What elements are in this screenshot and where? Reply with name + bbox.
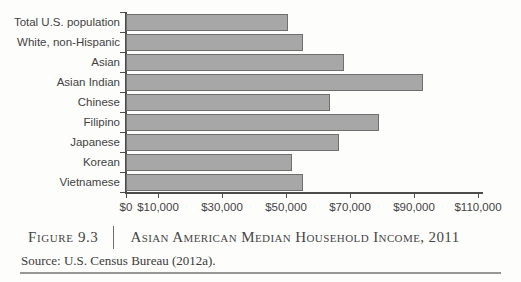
chart-row: Chinese <box>126 92 478 112</box>
x-tick-label: $0 <box>120 201 133 213</box>
figure-title: Asian American Median Household Income, … <box>130 229 459 246</box>
bar <box>126 134 339 151</box>
x-axis-tick <box>126 193 127 198</box>
y-axis-tick <box>120 112 126 113</box>
plot-area: Total U.S. populationWhite, non-Hispanic… <box>126 12 478 192</box>
y-axis-tick <box>120 152 126 153</box>
y-axis-tick <box>120 12 126 13</box>
y-axis-tick <box>120 72 126 73</box>
source-note: Source: U.S. Census Bureau (2012a). <box>21 253 216 269</box>
x-tick-label: $110,000 <box>454 201 501 213</box>
x-axis-tick <box>414 193 415 198</box>
bar <box>126 34 303 51</box>
category-label: White, non-Hispanic <box>0 32 120 52</box>
figure-caption: Figure 9.3 Asian American Median Househo… <box>28 224 460 250</box>
y-axis-tick <box>120 92 126 93</box>
x-axis-tick <box>350 193 351 198</box>
figure-page: Total U.S. populationWhite, non-Hispanic… <box>0 0 521 282</box>
chart-row: Japanese <box>126 132 478 152</box>
category-label: Vietnamese <box>0 172 120 192</box>
bar <box>126 14 288 31</box>
category-label: Korean <box>0 152 120 172</box>
figure-number: Figure 9.3 <box>28 229 98 246</box>
bottom-rule <box>20 272 501 274</box>
chart-row: Asian Indian <box>126 72 478 92</box>
x-axis-tick <box>286 193 287 198</box>
bar <box>126 94 330 111</box>
category-label: Asian <box>0 52 120 72</box>
x-axis-tick <box>158 193 159 198</box>
y-axis-tick <box>120 52 126 53</box>
chart-row: Vietnamese <box>126 172 478 192</box>
x-tick-label: $90,000 <box>393 201 435 213</box>
bar <box>126 54 344 71</box>
caption-divider <box>113 226 114 249</box>
bar <box>126 74 423 91</box>
category-label: Asian Indian <box>0 72 120 92</box>
chart-row: Filipino <box>126 112 478 132</box>
x-axis-line <box>125 192 483 194</box>
chart-row: Asian <box>126 52 478 72</box>
chart-row: Total U.S. population <box>126 12 478 32</box>
bar <box>126 114 379 131</box>
x-tick-label: $50,000 <box>265 201 307 213</box>
x-tick-label: $30,000 <box>201 201 243 213</box>
y-axis-tick <box>120 32 126 33</box>
category-label: Filipino <box>0 112 120 132</box>
x-tick-label: $10,000 <box>137 201 179 213</box>
category-label: Chinese <box>0 92 120 112</box>
chart-row: Korean <box>126 152 478 172</box>
category-label: Japanese <box>0 132 120 152</box>
x-axis-tick <box>478 193 479 198</box>
y-axis-tick <box>120 172 126 173</box>
chart-row: White, non-Hispanic <box>126 32 478 52</box>
bar <box>126 154 292 171</box>
x-axis-tick <box>222 193 223 198</box>
x-tick-label: $70,000 <box>329 201 371 213</box>
y-axis-tick <box>120 132 126 133</box>
bar <box>126 174 303 191</box>
category-label: Total U.S. population <box>0 12 120 32</box>
